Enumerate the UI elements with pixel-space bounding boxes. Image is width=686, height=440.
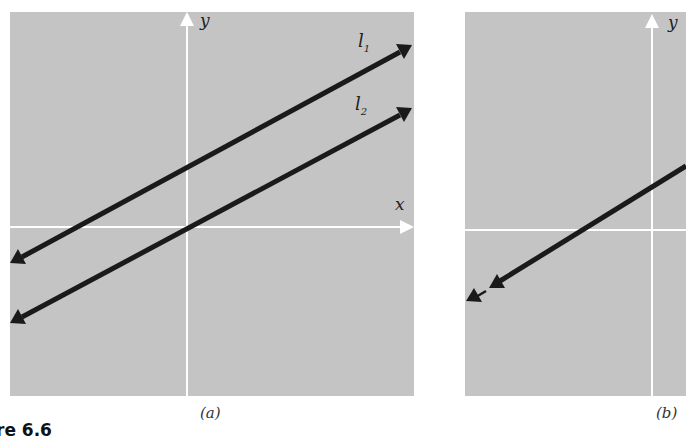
line-l2-label-sub: 2 [361, 106, 367, 117]
panel-b-y-axis-label: y [668, 12, 678, 32]
line-l1-label-sub: 1 [364, 43, 370, 54]
panel-b-caption: (b) [656, 404, 677, 422]
panel-a-x-axis-label: x [395, 194, 405, 214]
panel-a-y-axis-label: y [200, 10, 210, 30]
panel-a-caption: (a) [200, 404, 221, 422]
line-l2 [10, 107, 412, 324]
line-l1 [10, 44, 412, 264]
panel-a-y-axis [180, 12, 194, 396]
line-l1-label: l1 [358, 30, 370, 54]
panel-b-y-axis [645, 14, 659, 396]
figure-label: re 6.6 [0, 420, 52, 440]
line-l2-label: l2 [355, 93, 367, 117]
